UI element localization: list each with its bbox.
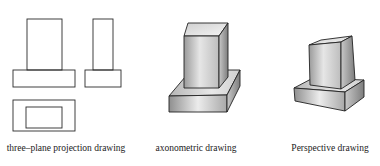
perspective-label: Perspective drawing (291, 143, 368, 153)
three-plane-label: three–plane projection drawing (7, 143, 126, 153)
axonometric-label: axonometric drawing (156, 143, 237, 153)
drawing-canvas (0, 0, 380, 166)
front-view (13, 19, 75, 87)
top-view (13, 100, 75, 131)
figure: three–plane projection drawing axonometr… (0, 0, 380, 166)
three-plane-projection (13, 19, 121, 131)
perspective-solid (294, 36, 364, 111)
axonometric-solid (169, 23, 240, 112)
side-view (85, 19, 121, 87)
